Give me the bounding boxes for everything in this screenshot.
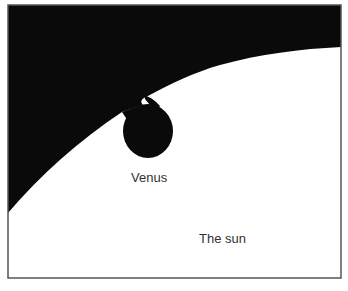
diagram-canvas <box>0 0 348 291</box>
venus-label: Venus <box>131 171 167 184</box>
black-drop-diagram: Venus The sun <box>0 0 348 291</box>
sun-label: The sun <box>199 232 246 245</box>
